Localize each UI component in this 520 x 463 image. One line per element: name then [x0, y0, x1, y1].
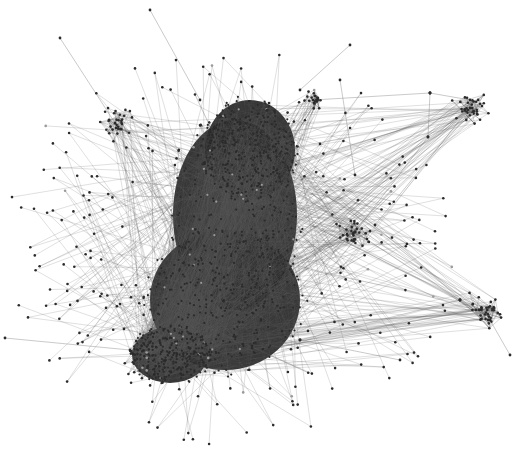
graph-node — [266, 239, 268, 241]
graph-node — [283, 200, 285, 202]
graph-node — [288, 213, 290, 215]
graph-node — [206, 367, 208, 369]
graph-node — [270, 196, 272, 198]
graph-node — [127, 373, 130, 376]
graph-node — [138, 373, 140, 375]
graph-node — [219, 116, 221, 118]
graph-node — [331, 387, 334, 390]
graph-node — [253, 342, 255, 344]
graph-node — [200, 356, 202, 358]
graph-node — [241, 231, 243, 233]
graph-node — [11, 196, 14, 199]
graph-node — [221, 315, 223, 317]
graph-node — [268, 263, 270, 265]
graph-node — [238, 179, 240, 181]
graph-node — [229, 341, 231, 343]
graph-node — [77, 342, 80, 345]
graph-node — [151, 400, 154, 403]
graph-node — [293, 142, 295, 144]
graph-node — [253, 332, 255, 334]
graph-node — [417, 355, 420, 358]
graph-node — [58, 318, 61, 321]
graph-node — [209, 168, 211, 170]
graph-node — [251, 111, 253, 113]
graph-node — [462, 112, 465, 115]
graph-node — [233, 328, 235, 330]
graph-node — [262, 348, 264, 350]
graph-node — [160, 351, 162, 353]
graph-node — [66, 283, 69, 286]
graph-node — [142, 365, 144, 367]
graph-node — [242, 198, 244, 200]
graph-node — [257, 239, 259, 241]
graph-node — [480, 317, 483, 320]
graph-node — [181, 338, 183, 340]
graph-node — [291, 140, 293, 142]
graph-node — [276, 305, 278, 307]
graph-node — [260, 163, 262, 165]
graph-node — [349, 127, 352, 130]
graph-node — [81, 341, 84, 344]
graph-node — [153, 332, 155, 334]
graph-node — [183, 261, 185, 263]
graph-node — [370, 107, 373, 110]
graph-node — [278, 128, 280, 130]
graph-node — [256, 332, 258, 334]
graph-node — [265, 237, 267, 239]
graph-node — [213, 141, 215, 143]
graph-node — [193, 304, 195, 306]
graph-node — [161, 358, 163, 360]
graph-node — [231, 173, 233, 175]
graph-node — [170, 325, 172, 327]
graph-node — [342, 267, 345, 270]
graph-node — [411, 216, 414, 219]
graph-node — [181, 318, 183, 320]
graph-node — [237, 247, 239, 249]
graph-node — [161, 258, 163, 260]
graph-node — [275, 150, 277, 152]
graph-node — [164, 378, 166, 380]
graph-node — [471, 107, 474, 110]
graph-node — [296, 403, 299, 406]
graph-node — [203, 245, 205, 247]
graph-node — [250, 228, 252, 230]
graph-node — [227, 104, 229, 106]
graph-node — [388, 377, 391, 380]
graph-node — [271, 298, 273, 300]
graph-node — [183, 362, 185, 364]
graph-node — [231, 164, 233, 166]
graph-node — [175, 354, 177, 356]
graph-node — [356, 228, 359, 231]
graph-node — [242, 391, 245, 394]
graph-node — [373, 139, 376, 142]
graph-node — [102, 208, 105, 211]
graph-node — [202, 163, 204, 165]
graph-node — [381, 118, 384, 121]
graph-node — [266, 278, 268, 280]
graph-node — [113, 112, 116, 115]
graph-node — [351, 226, 354, 229]
graph-node — [179, 372, 181, 374]
graph-node — [157, 283, 159, 285]
graph-node — [149, 308, 151, 310]
graph-node — [295, 239, 297, 241]
graph-node — [411, 362, 414, 365]
graph-node — [488, 327, 491, 330]
graph-node — [211, 166, 213, 168]
graph-node — [240, 81, 243, 84]
graph-node — [199, 305, 201, 307]
graph-node — [391, 236, 394, 239]
graph-node — [148, 348, 151, 351]
graph-node — [164, 337, 167, 340]
graph-node — [188, 381, 190, 383]
graph-node — [124, 362, 127, 365]
graph-node — [289, 135, 291, 137]
graph-node — [241, 284, 243, 286]
graph-node — [429, 336, 432, 339]
graph-node — [199, 124, 202, 127]
graph-node — [345, 228, 348, 231]
graph-node — [465, 110, 468, 113]
graph-node — [155, 286, 157, 288]
graph-node — [173, 337, 175, 339]
graph-node — [300, 231, 302, 233]
